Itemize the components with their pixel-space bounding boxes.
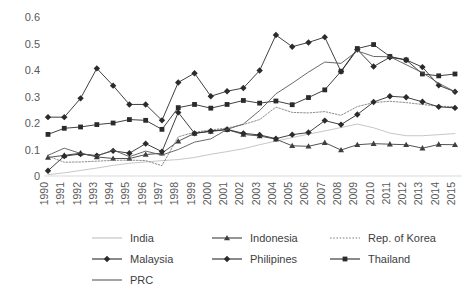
x-axis-tick-label: 2011 [380,182,392,205]
series-line [48,124,455,175]
x-axis-tick-label: 2004 [266,182,278,206]
legend-item-philipines[interactable]: Philipines [212,253,298,265]
x-axis-tick-label: 2003 [250,182,262,206]
legend-swatch-marker [224,256,230,262]
x-axis-tick-label: 1992 [71,182,83,206]
series-prc [48,51,455,157]
x-axis: 1990199119921993199419951996199719981999… [38,182,457,206]
legend-label: PRC [130,274,153,286]
data-point-marker [289,43,295,49]
x-axis-tick-label: 2008 [331,182,343,206]
data-point-marker [322,87,327,92]
chart-canvas: 00.10.20.30.40.50.6 19901991199219931994… [0,0,471,302]
legend-item-rep-of-korea[interactable]: Rep. of Korea [330,232,437,244]
y-axis-tick-label: 0.6 [25,11,40,23]
legend-swatch-marker [104,256,110,262]
data-point-marker [192,102,197,107]
x-axis-tick-label: 1995 [119,182,131,206]
series-philipines [45,93,458,174]
data-point-marker [143,118,148,123]
x-axis-tick-label: 1990 [38,182,50,206]
data-point-marker [78,125,83,130]
y-axis-tick-label: 0 [34,170,40,182]
data-point-marker [371,141,377,146]
x-axis-tick-label: 2000 [201,182,213,206]
data-point-marker [111,121,116,126]
x-axis-tick-label: 1997 [152,182,164,206]
data-point-marker [224,88,230,94]
x-axis-tick-label: 1991 [54,182,66,206]
data-point-marker [273,32,279,38]
x-axis-tick-label: 2014 [429,182,441,206]
x-axis-tick-label: 2002 [233,182,245,206]
legend-label: India [130,232,155,244]
x-axis-tick-label: 2009 [347,182,359,206]
data-point-marker [257,101,262,106]
y-axis-tick-label: 0.2 [25,117,40,129]
data-point-marker [339,69,344,74]
data-point-marker [436,104,442,110]
x-axis-tick-label: 2007 [315,182,327,206]
legend-item-indonesia[interactable]: Indonesia [212,232,299,244]
y-axis-tick-label: 0.4 [25,64,40,76]
data-point-marker [45,114,51,120]
x-axis-tick-label: 1994 [103,182,115,206]
legend-label: Malaysia [130,253,174,265]
data-point-marker [94,122,99,127]
series-india [48,124,455,175]
data-point-marker [387,93,393,99]
legend-label: Thailand [368,253,410,265]
series-malaysia [45,32,458,124]
data-point-marker [290,102,295,107]
series-line [48,35,455,120]
data-point-marker [355,46,360,51]
x-axis-tick-label: 2015 [445,182,457,206]
chart-legend: IndiaIndonesiaRep. of KoreaMalaysiaPhili… [92,232,437,286]
data-point-marker [274,99,279,104]
legend-label: Indonesia [250,232,299,244]
data-point-marker [322,34,328,40]
data-point-marker [191,70,197,76]
data-point-marker [452,105,458,111]
x-axis-tick-label: 2012 [396,182,408,206]
x-axis-tick-label: 1996 [136,182,148,206]
data-point-marker [322,117,328,123]
data-point-marker [322,140,328,145]
data-point-marker [403,94,409,100]
x-axis-tick-label: 2005 [282,182,294,206]
data-point-marker [46,132,51,137]
plot-area [45,32,458,175]
x-axis-tick-label: 1998 [168,182,180,206]
x-axis-tick-label: 2001 [217,182,229,206]
data-point-marker [453,72,458,77]
x-axis-tick-label: 2006 [298,182,310,206]
data-point-marker [371,42,376,47]
legend-item-malaysia[interactable]: Malaysia [92,253,174,265]
data-point-marker [142,140,148,146]
data-point-marker [404,58,409,63]
data-point-marker [62,126,67,131]
series-line [48,51,455,157]
data-point-marker [241,98,246,103]
legend-item-thailand[interactable]: Thailand [330,253,410,265]
data-point-marker [160,127,165,132]
y-axis-tick-label: 0.1 [25,144,40,156]
x-axis-tick-label: 2013 [412,182,424,206]
legend-item-india[interactable]: India [92,232,155,244]
data-point-marker [175,79,181,85]
data-point-marker [436,73,441,78]
data-point-marker [306,95,311,100]
series-thailand [46,42,458,137]
legend-swatch-marker [343,257,348,262]
data-point-marker [225,102,230,107]
x-axis-tick-label: 1993 [87,182,99,206]
data-point-marker [305,39,311,45]
data-point-marker [208,106,213,111]
y-axis-tick-label: 0.5 [25,38,40,50]
legend-label: Rep. of Korea [368,232,437,244]
legend-item-prc[interactable]: PRC [92,274,153,286]
y-axis-tick-label: 0.3 [25,91,40,103]
series-indonesia [45,127,458,161]
x-axis-tick-label: 1999 [185,182,197,206]
data-point-marker [208,93,214,99]
